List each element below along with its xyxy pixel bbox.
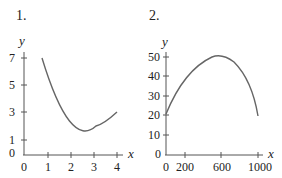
- chart2-curve: [166, 56, 258, 116]
- chart2-axes: [163, 52, 263, 158]
- charts-canvas: [0, 0, 282, 178]
- chart1-curve: [42, 58, 117, 131]
- chart1-axes: [21, 52, 123, 158]
